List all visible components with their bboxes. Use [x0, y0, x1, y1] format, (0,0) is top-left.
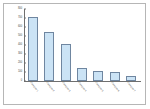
y-axis-tick-label: 400	[18, 44, 22, 47]
bar	[61, 44, 71, 81]
y-axis-tick-label: 800	[18, 8, 22, 11]
y-axis-tick-label: 100	[18, 71, 22, 74]
y-axis-tick-label: 0	[21, 80, 22, 83]
x-axis-tick-label: Category 5	[94, 82, 103, 93]
bar	[44, 32, 54, 81]
y-axis-tick-label: 300	[18, 53, 22, 56]
x-axis-labels: Category 1Category 2Category 3Category 4…	[25, 82, 145, 109]
y-axis-tick-label: 700	[18, 17, 22, 20]
bar	[93, 71, 103, 81]
x-axis-tick-label: Category 4	[77, 82, 86, 93]
y-axis: 8007006005004003002001000	[6, 9, 22, 81]
bar	[110, 72, 120, 81]
bar	[28, 17, 38, 81]
x-axis-tick-label: Category 1	[29, 82, 38, 93]
x-axis-tick-label: Category 2	[45, 82, 54, 93]
x-axis-tick-label: Category 3	[61, 82, 70, 93]
x-axis-tick-label: Category 6	[110, 82, 119, 93]
y-axis-tick-label: 500	[18, 35, 22, 38]
y-axis-tick-label: 200	[18, 62, 22, 65]
bar-series	[25, 9, 139, 81]
bar	[77, 68, 87, 81]
y-axis-tick-label: 600	[18, 26, 22, 29]
x-axis-tick-label: Category 7	[126, 82, 135, 93]
bar	[126, 76, 136, 81]
chart-frame: 8007006005004003002001000 Category 1Cate…	[3, 3, 146, 105]
plot-area: 8007006005004003002001000 Category 1Cate…	[4, 4, 145, 104]
